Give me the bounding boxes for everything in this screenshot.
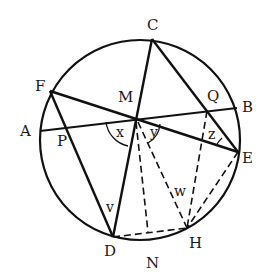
- label-C: C: [147, 16, 158, 34]
- dashed-QH: [187, 111, 207, 228]
- angle-label-y: y: [149, 124, 158, 140]
- label-D: D: [104, 242, 116, 260]
- angle-label-x: x: [116, 124, 124, 140]
- label-P: P: [57, 132, 67, 150]
- angle-label-v: v: [105, 199, 114, 215]
- geometry-diagram: A B C D E F H M N P Q x y z v w: [0, 0, 270, 280]
- label-F: F: [35, 77, 45, 95]
- angle-label-w: w: [174, 183, 186, 199]
- dashed-EH: [187, 152, 238, 228]
- label-B: B: [242, 98, 253, 116]
- dashed-MN: [136, 122, 148, 232]
- label-E: E: [242, 149, 253, 167]
- angle-label-z: z: [208, 126, 215, 142]
- chord-FD: [50, 91, 113, 237]
- label-A: A: [19, 122, 31, 140]
- label-H: H: [189, 234, 202, 252]
- label-N: N: [146, 254, 159, 272]
- label-Q: Q: [207, 87, 219, 105]
- label-M: M: [118, 88, 133, 106]
